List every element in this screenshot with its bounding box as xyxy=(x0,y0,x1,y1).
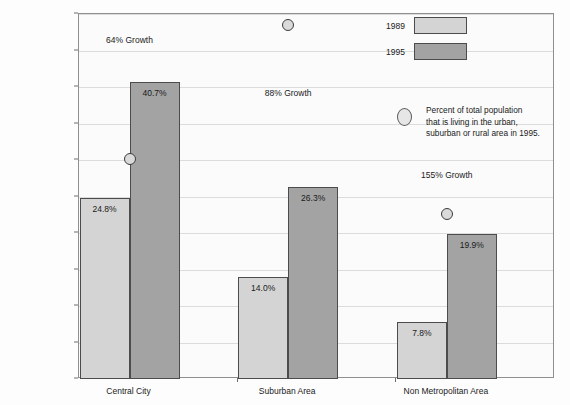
bar-1995-central-city: 40.7% xyxy=(130,82,180,379)
grouped-bar-chart: 0%5%10%15%20%25%30%35%40%45%50% 24.8%40.… xyxy=(0,0,570,405)
x-axis-category-label: Suburban Area xyxy=(259,386,316,396)
bar-value-label: 7.8% xyxy=(398,328,446,338)
circle-marker-icon xyxy=(397,108,412,126)
bar-1995-non-metropolitan-area: 19.9% xyxy=(447,234,497,379)
growth-annotation: 64% Growth xyxy=(106,35,153,45)
bar-value-label: 24.8% xyxy=(81,204,129,214)
x-axis-tick-mark xyxy=(237,378,238,382)
legend-label-1995: 1995 xyxy=(386,47,414,57)
legend-swatch-1989 xyxy=(414,17,467,34)
x-axis-tick-mark xyxy=(395,378,396,382)
bar-1989-suburban-area: 14.0% xyxy=(238,277,288,379)
bar-value-label: 14.0% xyxy=(239,283,287,293)
legend-desc-line-2: that is living in the urban, xyxy=(426,117,540,129)
legend-label-1989: 1989 xyxy=(386,21,414,31)
legend-desc-line-1: Percent of total population xyxy=(426,105,540,117)
legend-item-marker: Percent of total population that is livi… xyxy=(386,105,540,140)
bar-1989-central-city: 24.8% xyxy=(80,198,130,379)
bar-1989-non-metropolitan-area: 7.8% xyxy=(397,322,447,379)
bar-value-label: 19.9% xyxy=(448,240,496,250)
bar-1995-suburban-area: 26.3% xyxy=(288,187,338,379)
gridline xyxy=(79,14,553,15)
bar-value-label: 40.7% xyxy=(131,88,179,98)
gridline xyxy=(79,51,553,52)
bar-value-label: 26.3% xyxy=(289,193,337,203)
legend-swatch-1995 xyxy=(414,43,467,60)
legend-desc-line-3: suburban or rural area in 1995. xyxy=(426,128,540,140)
growth-annotation: 155% Growth xyxy=(421,170,473,180)
x-axis-category-label: Central City xyxy=(106,386,150,396)
x-axis-category-label: Non Metropolitan Area xyxy=(404,386,489,396)
legend-item-1989: 1989 xyxy=(386,17,467,34)
circle-marker-suburban-area xyxy=(282,19,294,31)
legend-marker-description: Percent of total population that is livi… xyxy=(426,105,540,140)
circle-marker-central-city xyxy=(124,153,136,165)
legend-item-1995: 1995 xyxy=(386,43,467,60)
growth-annotation: 88% Growth xyxy=(265,88,312,98)
plot-area: 24.8%40.7%14.0%26.3%7.8%19.9%64% Growth8… xyxy=(78,13,554,378)
circle-marker-non-metropolitan-area xyxy=(441,208,453,220)
